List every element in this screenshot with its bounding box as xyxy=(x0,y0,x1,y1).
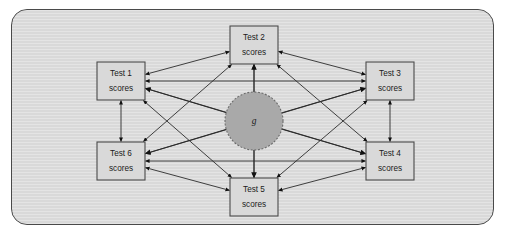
node-layer: gTest 1scoresTest 2scoresTest 3scoresTes… xyxy=(97,26,414,216)
correlation-edge-test5-test6 xyxy=(146,168,230,191)
test-label-line1-test4: Test 4 xyxy=(379,149,401,158)
factor-edge-g-test6 xyxy=(146,129,227,153)
test-node-test5: Test 5scores xyxy=(230,178,278,216)
correlation-edge-test1-test5 xyxy=(143,101,231,178)
correlation-edge-test4-test5 xyxy=(279,167,366,190)
correlation-edge-test2-test6 xyxy=(143,65,231,142)
latent-factor-label: g xyxy=(252,116,257,126)
correlation-edge-test2-test4 xyxy=(277,65,367,142)
test-label-line2-test2: scores xyxy=(242,48,266,57)
test-label-line2-test3: scores xyxy=(378,84,402,93)
figure-root: gTest 1scoresTest 2scoresTest 3scoresTes… xyxy=(0,0,509,244)
test-label-line1-test3: Test 3 xyxy=(379,69,401,78)
test-label-line2-test6: scores xyxy=(109,164,133,173)
test-node-test1: Test 1scores xyxy=(97,62,145,100)
test-node-test3: Test 3scores xyxy=(366,62,414,100)
path-diagram-canvas: gTest 1scoresTest 2scoresTest 3scoresTes… xyxy=(0,0,509,244)
correlation-edge-test1-test2 xyxy=(146,52,230,75)
test-label-line2-test4: scores xyxy=(378,164,402,173)
correlation-edge-test2-test3 xyxy=(279,51,366,74)
test-label-line1-test1: Test 1 xyxy=(110,69,132,78)
factor-edge-g-test3 xyxy=(282,88,366,113)
test-label-line1-test5: Test 5 xyxy=(243,185,265,194)
test-node-test6: Test 6scores xyxy=(97,142,145,180)
test-label-line2-test1: scores xyxy=(109,84,133,93)
test-label-line1-test6: Test 6 xyxy=(110,149,132,158)
factor-edge-g-test4 xyxy=(282,129,366,154)
test-label-line1-test2: Test 2 xyxy=(243,33,265,42)
test-node-test2: Test 2scores xyxy=(230,26,278,64)
test-node-test4: Test 4scores xyxy=(366,142,414,180)
latent-factor-g: g xyxy=(225,92,283,150)
test-label-line2-test5: scores xyxy=(242,200,266,209)
factor-edge-g-test1 xyxy=(146,88,227,112)
correlation-edge-test3-test5 xyxy=(277,101,367,178)
